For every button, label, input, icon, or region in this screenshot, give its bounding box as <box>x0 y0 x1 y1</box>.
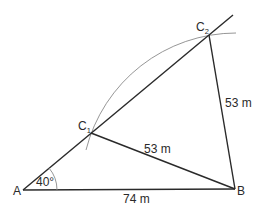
angle-label-A: 40° <box>36 175 54 189</box>
length-label-C1B: 53 m <box>144 142 171 156</box>
length-label-AB: 74 m <box>123 192 150 206</box>
construction-arc <box>86 33 236 150</box>
ray-A-C2 <box>23 15 233 190</box>
length-label-C2B: 53 m <box>225 96 252 110</box>
point-label-C1: C1 <box>78 119 91 135</box>
side-C2B <box>209 35 235 189</box>
side-AB <box>23 189 235 190</box>
point-label-A: A <box>13 184 21 198</box>
point-label-B: B <box>237 184 245 198</box>
triangle-diagram: A B C1 C2 40° 74 m 53 m 53 m <box>0 0 270 218</box>
point-label-C2: C2 <box>196 20 209 36</box>
